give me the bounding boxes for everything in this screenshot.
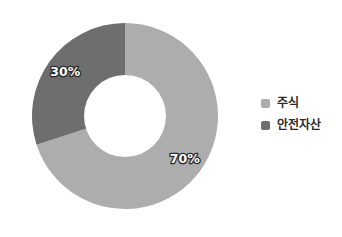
- legend-swatch-safe-assets: [261, 121, 270, 130]
- chart-legend: 주식 안전자산: [261, 96, 321, 132]
- legend-swatch-stocks: [261, 99, 270, 108]
- slice-label-stocks: 70%: [170, 151, 200, 166]
- legend-item-stocks[interactable]: 주식: [261, 96, 321, 110]
- donut-chart: 70% 30% 주식 안전자산: [0, 0, 342, 237]
- legend-label-safe-assets: 안전자산: [277, 119, 321, 131]
- legend-label-stocks: 주식: [277, 97, 299, 109]
- legend-item-safe-assets[interactable]: 안전자산: [261, 118, 321, 132]
- donut-hole: [84, 75, 166, 157]
- slice-label-safe-assets: 30%: [50, 64, 80, 79]
